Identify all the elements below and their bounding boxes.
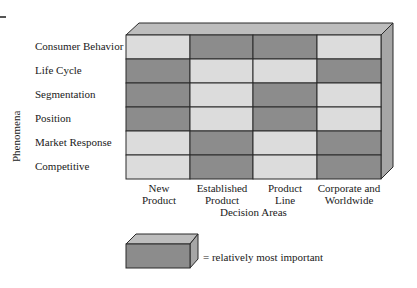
legend-front-face xyxy=(126,244,190,268)
matrix-cell xyxy=(126,35,190,59)
col-label-corporate-worldwide: Corporate and Worldwide xyxy=(309,182,389,206)
matrix-cells xyxy=(126,35,381,179)
matrix-cell xyxy=(253,35,317,59)
matrix-cell xyxy=(126,83,190,107)
matrix-cell xyxy=(190,35,253,59)
matrix-cell xyxy=(253,59,317,83)
matrix-cell xyxy=(190,131,253,155)
matrix-cell xyxy=(190,83,253,107)
matrix-cell xyxy=(126,131,190,155)
matrix-cell xyxy=(126,107,190,131)
col-label-line1: Corporate and xyxy=(309,182,389,194)
matrix-cell xyxy=(190,155,253,179)
matrix-cell xyxy=(317,35,381,59)
matrix-cell xyxy=(253,107,317,131)
matrix-side-face xyxy=(381,23,393,179)
matrix-cell xyxy=(190,59,253,83)
matrix-cell xyxy=(190,107,253,131)
importance-matrix-3d xyxy=(0,0,417,288)
legend-top-face xyxy=(126,234,198,244)
matrix-cell xyxy=(253,155,317,179)
matrix-cell xyxy=(126,59,190,83)
x-axis-title: Decision Areas xyxy=(220,206,287,218)
matrix-cell xyxy=(317,155,381,179)
matrix-cell xyxy=(253,83,317,107)
matrix-cell xyxy=(126,155,190,179)
matrix-cell xyxy=(317,107,381,131)
matrix-cell xyxy=(253,131,317,155)
matrix-cell xyxy=(317,131,381,155)
matrix-cell xyxy=(317,83,381,107)
matrix-cell xyxy=(317,59,381,83)
legend-text: = relatively most important xyxy=(203,251,323,263)
col-label-line2: Worldwide xyxy=(309,194,389,206)
matrix-top-face xyxy=(126,23,393,35)
